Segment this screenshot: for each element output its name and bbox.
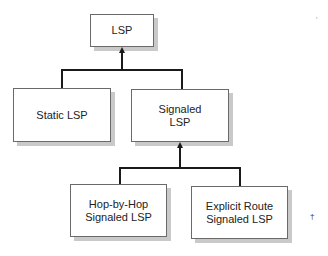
node-explicit-route-signaled-lsp: Explicit Route Signaled LSP (191, 186, 288, 239)
node-hop-by-hop-signaled-lsp: Hop-by-Hop Signaled LSP (70, 184, 167, 237)
edge-hop-drop (119, 167, 121, 184)
edge-explicit-drop (239, 167, 241, 186)
edge-level2-bar (119, 167, 241, 169)
scan-mark: ′ (316, 16, 317, 23)
edge-signaled-stem (179, 147, 181, 169)
scan-mark: † (310, 212, 314, 221)
edge-signaled-drop (181, 69, 183, 89)
node-lsp: LSP (90, 14, 154, 47)
edge-static-drop (61, 69, 63, 88)
node-signaled-lsp: Signaled LSP (131, 89, 229, 142)
edge-level1-bar (61, 69, 183, 71)
node-static-lsp: Static LSP (13, 88, 111, 142)
